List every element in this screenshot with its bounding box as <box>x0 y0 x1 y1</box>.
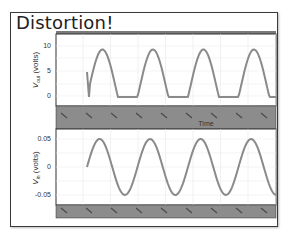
vin-axis-label: Vin (volts) <box>31 151 41 185</box>
ytick-neg0.05: -0.05 <box>35 191 51 198</box>
vout-plot: 10 5 0 Vout (volts) <box>31 31 276 106</box>
bottom-band <box>56 205 276 218</box>
vin-plot: 0.05 0 -0.05 Vin (volts) <box>31 129 276 205</box>
ytick-10: 10 <box>43 42 51 49</box>
ytick-0: 0 <box>47 163 51 170</box>
ytick-0: 0 <box>47 92 51 99</box>
chart-area: 10 5 0 Vout (volts) Time 0.05 0 -0.05 Vi… <box>0 0 289 233</box>
ytick-0.05: 0.05 <box>37 135 51 142</box>
time-axis-band: Time <box>56 106 276 129</box>
vout-axis-label: Vout (volts) <box>31 52 41 89</box>
x-axis-label: Time <box>198 120 213 127</box>
ytick-5: 5 <box>47 67 51 74</box>
